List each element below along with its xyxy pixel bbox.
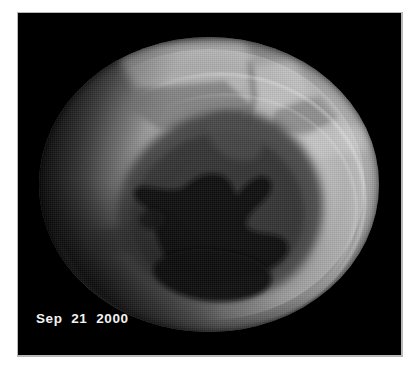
date-caption: Sep 21 2000 bbox=[36, 311, 129, 326]
disk-lower-left-darkening bbox=[39, 37, 379, 332]
planetary-disk bbox=[39, 37, 379, 332]
satellite-image-panel: Sep 21 2000 bbox=[18, 13, 401, 355]
figure-page: Sep 21 2000 bbox=[0, 0, 414, 372]
disk-container bbox=[18, 13, 401, 355]
